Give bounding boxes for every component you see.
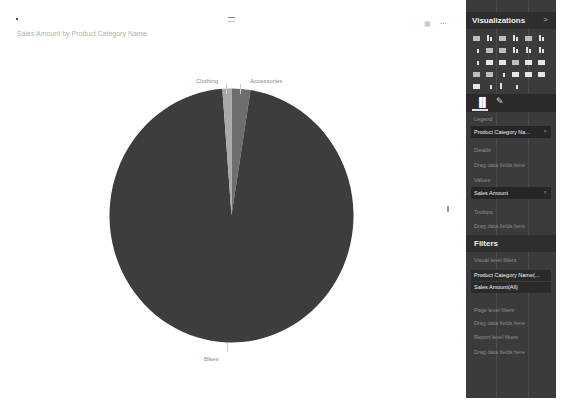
pie-chart[interactable] [109,88,354,343]
map-icon[interactable] [537,58,546,66]
leader-line-clothing [226,84,227,94]
more-options-icon[interactable]: ... [440,17,447,26]
values-section-label: Values [474,177,490,183]
stacked-column-chart-icon[interactable] [485,34,494,42]
page-filters-drop-zone[interactable]: Drag data fields here [474,320,525,326]
waterfall-chart-icon[interactable] [472,58,481,66]
active-tab-indicator [472,109,488,111]
values-field-well[interactable]: Sales Amount × [471,187,551,199]
clustered-column-chart-icon[interactable] [511,34,520,42]
legend-field-well[interactable]: Product Category Na... × [471,126,551,138]
details-section-label: Details [474,147,491,153]
remove-field-icon[interactable]: × [543,189,547,195]
collapse-pane-icon[interactable]: > [543,15,548,24]
visualizations-pane: Visualizations > ▐▌ ✎ L [466,0,556,398]
scatter-chart-icon[interactable] [485,58,494,66]
slice-label-accessories: Accessories [250,78,282,84]
legend-field[interactable]: Product Category Na... [474,129,530,135]
leader-line-bikes [227,343,228,351]
card-icon[interactable] [511,70,520,78]
visual-level-filters-label: Visual level filters [474,257,516,263]
pane-tabs: ▐▌ ✎ [466,94,556,112]
donut-chart-icon[interactable] [511,58,520,66]
stacked-area-chart-icon[interactable] [498,46,507,54]
tooltips-drop-zone[interactable]: Drag data fields here [474,223,525,229]
filters-title: Filters [474,239,498,248]
remove-field-icon[interactable]: × [543,128,547,134]
stacked-bar-chart-icon[interactable] [472,34,481,42]
visualizations-header: Visualizations > [466,12,556,29]
drag-handle-icon[interactable] [228,17,235,22]
filter-card-label: Product Category Name(... [474,272,539,278]
treemap-icon[interactable] [524,58,533,66]
r-visual-icon[interactable] [498,82,507,90]
paint-roller-icon[interactable]: ✎ [496,96,504,106]
tooltips-section-label: Tooltips [474,209,493,215]
leader-line-accessories [240,84,241,94]
ribbon-chart-icon[interactable] [537,46,546,54]
kpi-icon[interactable] [537,70,546,78]
filter-card-sales-amount[interactable]: Sales Amount(All) [471,282,551,293]
values-field[interactable]: Sales Amount [474,190,508,196]
fields-icon[interactable]: ▐▌ [476,97,489,107]
slice-label-clothing: Clothing [196,78,218,84]
visual-type-gallery [472,34,550,92]
visual-marker [16,18,18,20]
more-visuals-icon[interactable] [511,82,520,90]
resize-handle[interactable] [447,206,449,212]
report-level-filters-label: Report level filters [474,334,518,340]
filled-map-icon[interactable] [472,70,481,78]
funnel-icon[interactable] [485,70,494,78]
page-level-filters-label: Page level filters [474,307,514,313]
area-chart-icon[interactable] [485,46,494,54]
line-and-stacked-column-icon[interactable] [524,46,533,54]
chart-title: Sales Amount by Product Category Name [17,30,147,37]
details-drop-zone[interactable]: Drag data fields here [474,162,525,168]
filter-card-product-category[interactable]: Product Category Name(... [471,270,551,281]
line-chart-icon[interactable] [472,46,481,54]
report-filters-drop-zone[interactable]: Drag data fields here [474,349,525,355]
slicer-icon[interactable] [472,82,481,90]
legend-section-label: Legend [474,116,492,122]
line-and-column-icon[interactable] [511,46,520,54]
gauge-icon[interactable] [498,70,507,78]
focus-mode-icon[interactable]: ▦ [424,20,431,28]
clustered-bar-chart-icon[interactable] [498,34,507,42]
multi-row-card-icon[interactable] [524,70,533,78]
pie-chart-icon[interactable] [498,58,507,66]
filters-header: Filters [466,235,556,252]
visualizations-title: Visualizations [472,16,525,25]
filter-card-label: Sales Amount(All) [474,284,518,290]
100-stacked-column-icon[interactable] [537,34,546,42]
report-canvas[interactable]: Sales Amount by Product Category Name ▦ … [0,0,462,409]
table-icon[interactable] [485,82,494,90]
100-stacked-bar-icon[interactable] [524,34,533,42]
slice-label-bikes: Bikes [204,356,219,362]
pane-scrollbar[interactable] [556,0,564,398]
